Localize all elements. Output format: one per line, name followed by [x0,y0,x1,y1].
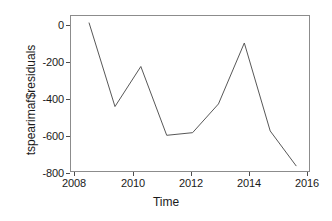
y-tick-label: -600 [42,130,64,142]
y-axis-title: tspearimaf$residuals [24,25,38,175]
plot-area [70,15,310,172]
x-tick-label: 2012 [179,177,203,189]
y-tick-label: -200 [42,56,64,68]
x-tick-label: 2014 [237,177,261,189]
x-tick-mark [133,172,134,176]
residuals-line-chart: 0 -200 -400 -600 -800 2008 2010 2012 201… [0,0,332,221]
x-tick-mark [74,172,75,176]
x-tick-mark [191,172,192,176]
x-tick-mark [249,172,250,176]
y-tick-label: -800 [42,167,64,179]
y-tick-label: 0 [58,19,64,31]
x-tick-label: 2016 [295,177,319,189]
x-tick-label: 2010 [121,177,145,189]
x-tick-label: 2008 [62,177,86,189]
x-tick-mark [307,172,308,176]
x-axis-title: Time [0,195,332,209]
residuals-line [89,23,296,166]
y-tick-mark [66,173,70,174]
y-tick-label: -400 [42,93,64,105]
data-series-svg [71,16,309,171]
